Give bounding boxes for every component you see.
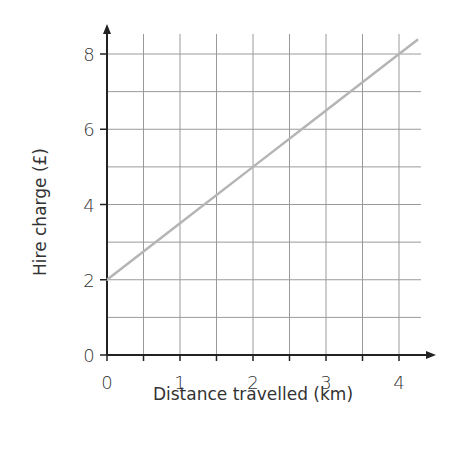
y-tick-label: 2	[83, 270, 94, 291]
grid-lines	[107, 34, 421, 355]
y-axis-arrow-icon	[103, 24, 111, 34]
y-tick-label: 6	[83, 119, 94, 140]
line-chart: 01234 02468 Distance travelled (km) Hire…	[0, 0, 451, 449]
y-axis-label: Hire charge (£)	[30, 148, 50, 276]
x-tick-label: 0	[101, 372, 112, 393]
data-series	[107, 40, 417, 280]
y-axis-ticks: 02468	[83, 44, 107, 366]
y-tick-label: 4	[83, 195, 94, 216]
axes	[103, 24, 436, 359]
x-axis-label: Distance travelled (km)	[153, 384, 353, 404]
x-axis-arrow-icon	[426, 351, 436, 359]
series-line	[107, 40, 417, 280]
x-tick-label: 4	[393, 372, 404, 393]
y-tick-label: 0	[83, 345, 94, 366]
y-tick-label: 8	[83, 44, 94, 65]
